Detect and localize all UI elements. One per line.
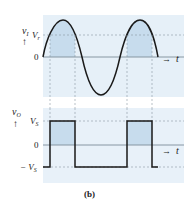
figure-caption: (b)	[84, 189, 95, 199]
bottom-zero-tick-label: 0	[34, 140, 39, 150]
top-y-axis-arrow-icon: ↑	[22, 36, 27, 47]
vr-tick-label: Vr	[32, 30, 41, 41]
vs-tick-label: VS	[30, 116, 39, 127]
top-zero-tick-label: 0	[34, 52, 39, 62]
bottom-shaded-region-2	[127, 121, 152, 145]
comparator-waveform-diagram: vI ↑ Vr 0 → t vO ↑ VS 0	[0, 0, 188, 200]
output-waveform-plot: vO ↑ VS 0 − VS → t	[12, 106, 184, 183]
bottom-shaded-region-1	[50, 121, 75, 145]
top-time-label: t	[176, 53, 179, 64]
bottom-y-axis-label: vO	[12, 106, 21, 118]
bottom-y-axis-arrow-icon: ↑	[13, 118, 18, 129]
bottom-time-arrow-icon: →	[162, 146, 171, 156]
bottom-time-label: t	[176, 145, 179, 156]
input-waveform-plot: vI ↑ Vr 0 → t	[22, 15, 184, 97]
top-time-arrow-icon: →	[162, 54, 171, 64]
neg-vs-tick-label: − VS	[20, 162, 37, 173]
